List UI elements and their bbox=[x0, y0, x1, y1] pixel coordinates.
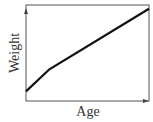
chart: Age Weight bbox=[0, 0, 153, 122]
x-axis-label: Age bbox=[76, 104, 99, 119]
x-axis-arrow-icon bbox=[143, 99, 149, 103]
data-line bbox=[26, 9, 149, 92]
y-axis-arrow-icon bbox=[24, 8, 28, 14]
y-axis-label: Weight bbox=[7, 33, 22, 73]
